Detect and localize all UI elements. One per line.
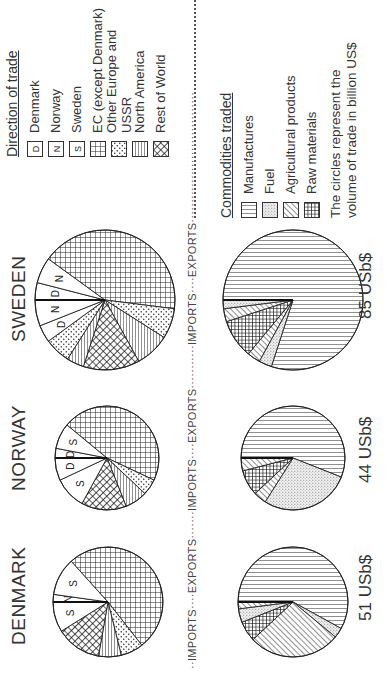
slice-code-label: D [50,290,61,297]
label-exports: EXPORTS [186,389,198,443]
legend-item-other-europe: Other Europe and USSR [108,0,129,157]
svg-text:D: D [31,145,41,152]
legend-divider [194,0,196,218]
country-title-norway: NORWAY [8,405,30,491]
svg-text:S: S [73,146,83,152]
norway-swatch-icon: N [48,141,64,157]
country-title-sweden: SWEDEN [8,256,30,342]
legend-item-manufactures: Manufactures [238,0,259,218]
legend-item-fuel: Fuel [259,0,280,218]
country-title-denmark: DENMARK [8,546,30,645]
total-sweden: 85 USb$ [356,253,376,319]
label-imports: IMPORTS [186,459,198,511]
pie-imports-sweden: DNDN [35,230,175,370]
denmark-swatch-icon: D [27,141,43,157]
rotated-figure: NSSDSSDDNDN DENMARK NORWAY SWEDEN 51 USb… [0,0,387,673]
legend-item-raw-materials: Raw materials [301,0,322,218]
slice-code-label: D [56,321,67,328]
svg-text:N: N [52,146,62,153]
total-denmark: 51 USb$ [356,555,376,621]
total-norway: 44 USb$ [356,417,376,483]
legend-commodities-title: Commodities traded [218,0,234,218]
pie-imports-norway: DSSD [55,406,159,510]
sweden-swatch-icon: S [69,141,85,157]
slice-code-label: N [54,275,65,282]
slice-code-label: S [75,480,86,487]
pie-imports-denmark: NSS [53,547,163,657]
pie-exports-sweden [223,230,363,370]
legend-item-norway: N Norway [45,0,66,157]
label-exports: EXPORTS [186,539,198,593]
grid-pattern-icon [90,141,106,157]
legend-item-sweden: S Sweden [66,0,87,157]
lines-pattern-icon [132,141,148,157]
diagonal-pattern-icon [283,202,299,218]
legend-item-denmark: D Denmark [24,0,45,157]
legend-commodities: Commodities traded Manufactures Fuel Agr… [218,0,360,218]
slice-code-label: S [65,609,76,616]
slice-code-label: D [65,463,76,470]
slice-code-label: S [68,580,79,587]
vertical-lines-pattern-icon [241,202,257,218]
imports-exports-separator: ··IMPORTS····EXPORTS·······IMPORTS····EX… [186,92,198,669]
pie-exports-norway [241,406,345,510]
legend-item-agricultural: Agricultural products [280,0,301,218]
legend-direction: Direction of trade D Denmark N Norway S … [4,0,171,157]
slice-code-label: S [68,438,79,445]
dense-grid-pattern-icon [304,202,320,218]
label-exports: EXPORTS [186,223,198,277]
legend-note: The circles represent the volume of trad… [328,0,360,218]
label-imports: IMPORTS [186,293,198,345]
slice-code-label: N [50,306,61,313]
legend-item-rest-of-world: Rest of World [150,0,171,157]
pie-exports-denmark [238,547,348,657]
stipple-pattern-icon [262,202,278,218]
legend-direction-title: Direction of trade [4,0,20,157]
dots-pattern-icon [111,141,127,157]
label-imports: IMPORTS [186,609,198,661]
crosshatch-pattern-icon [153,141,169,157]
